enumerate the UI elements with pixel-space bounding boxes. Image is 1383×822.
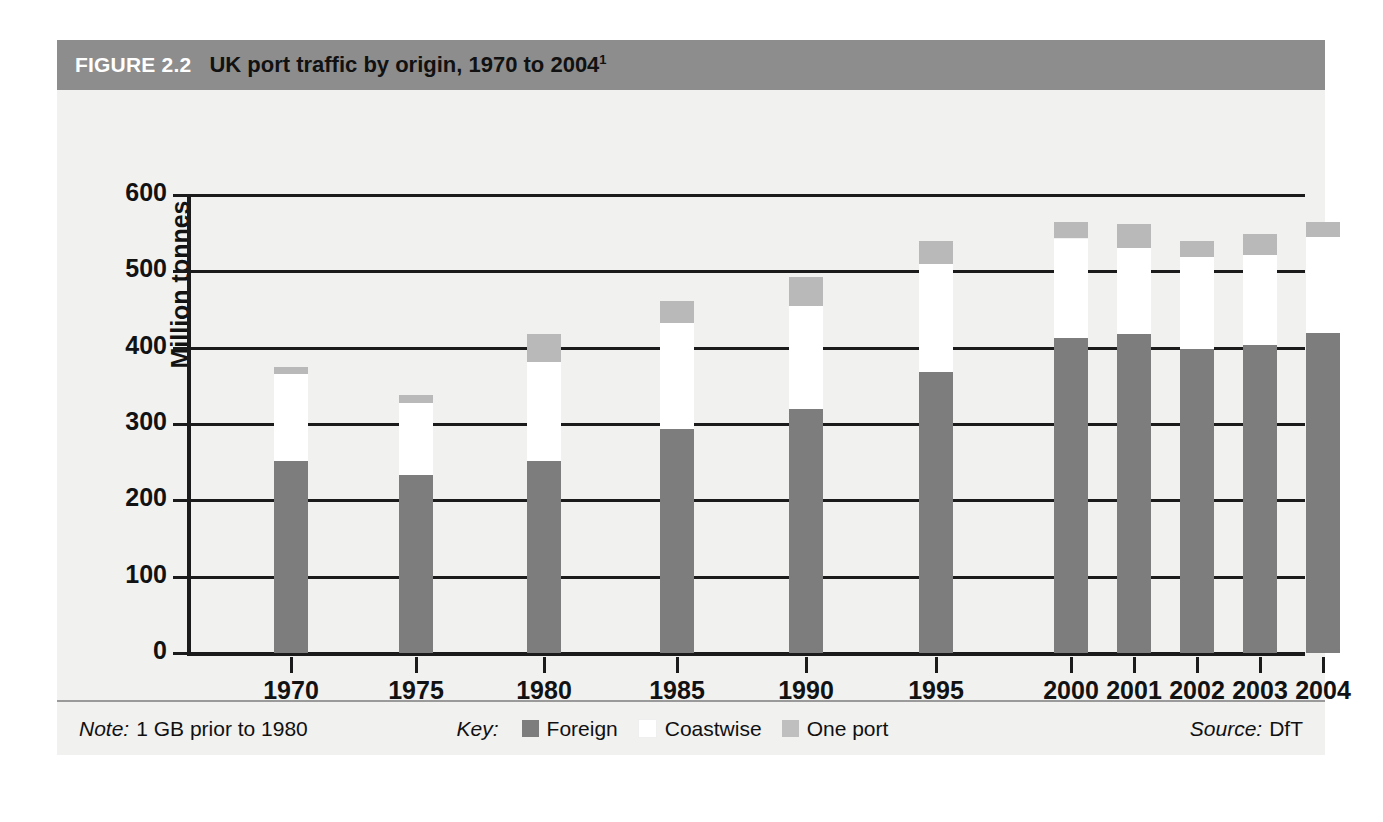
figure-title: UK port traffic by origin, 1970 to 20041	[209, 52, 606, 78]
bar-1985	[660, 90, 694, 700]
bar-1970	[274, 90, 308, 700]
legend-swatch-foreign-icon	[522, 720, 539, 737]
legend-item-coastwise: Coastwise	[665, 717, 762, 741]
bar-segment-one-port-2004	[1306, 222, 1340, 237]
bar-segment-one-port-1975	[399, 395, 433, 403]
source-block: Source: DfT	[1190, 717, 1303, 741]
figure-header: FIGURE 2.2 UK port traffic by origin, 19…	[57, 40, 1325, 90]
bar-segment-coastwise-1975	[399, 403, 433, 476]
bar-segment-foreign-2004	[1306, 333, 1340, 653]
x-tick-mark-2000	[1070, 657, 1073, 673]
figure-title-text: UK port traffic by origin, 1970 to 2004	[209, 52, 599, 77]
x-tick-mark-2001	[1133, 657, 1136, 673]
bar-segment-foreign-1985	[660, 429, 694, 653]
bar-segment-coastwise-2003	[1243, 255, 1277, 345]
bar-segment-foreign-1995	[919, 372, 953, 653]
x-tick-mark-1975	[415, 657, 418, 673]
bar-segment-coastwise-2000	[1054, 239, 1088, 338]
source-text: DfT	[1269, 717, 1303, 741]
bar-segment-one-port-2000	[1054, 222, 1088, 239]
x-tick-mark-1990	[805, 657, 808, 673]
bar-segment-foreign-1975	[399, 475, 433, 653]
note-block: Note: 1 GB prior to 1980	[79, 717, 308, 741]
note-label: Note:	[79, 717, 129, 741]
note-text: 1 GB prior to 1980	[136, 717, 308, 741]
bar-segment-one-port-2002	[1180, 241, 1214, 257]
bar-2004	[1306, 90, 1340, 700]
source-label: Source:	[1190, 717, 1262, 741]
x-tick-mark-2004	[1322, 657, 1325, 673]
bar-segment-foreign-2000	[1054, 338, 1088, 653]
bar-segment-coastwise-2004	[1306, 237, 1340, 333]
bar-segment-one-port-1990	[789, 277, 823, 306]
x-tick-mark-1995	[935, 657, 938, 673]
bar-segment-foreign-1980	[527, 461, 561, 653]
bar-segment-one-port-1980	[527, 334, 561, 362]
bar-segment-foreign-1970	[274, 461, 308, 653]
legend-item-one-port: One port	[807, 717, 889, 741]
figure-container: FIGURE 2.2 UK port traffic by origin, 19…	[57, 40, 1325, 755]
bar-1995	[919, 90, 953, 700]
figure-title-footnote-marker: 1	[599, 52, 606, 67]
bar-segment-foreign-2002	[1180, 349, 1214, 653]
bar-segment-one-port-2001	[1117, 224, 1151, 248]
bar-1980	[527, 90, 561, 700]
x-tick-mark-1985	[676, 657, 679, 673]
bar-2002	[1180, 90, 1214, 700]
bar-segment-one-port-2003	[1243, 234, 1277, 255]
x-tick-mark-2003	[1259, 657, 1262, 673]
bar-segment-foreign-2001	[1117, 334, 1151, 653]
bar-segment-coastwise-2001	[1117, 248, 1151, 333]
bar-segment-coastwise-1985	[660, 323, 694, 428]
bar-segment-coastwise-1970	[274, 374, 308, 460]
bar-segment-one-port-1995	[919, 241, 953, 264]
x-tick-mark-1980	[543, 657, 546, 673]
legend-swatch-coastwise-icon	[638, 719, 657, 738]
bar-2001	[1117, 90, 1151, 700]
legend-swatch-one-port-icon	[782, 720, 799, 737]
bar-1990	[789, 90, 823, 700]
bar-segment-foreign-2003	[1243, 345, 1277, 653]
x-tick-mark-1970	[290, 657, 293, 673]
figure-number: FIGURE 2.2	[75, 53, 191, 77]
bar-segment-coastwise-1990	[789, 306, 823, 408]
legend-item-foreign: Foreign	[547, 717, 618, 741]
x-tick-mark-2002	[1196, 657, 1199, 673]
legend: Key: Foreign Coastwise One port	[457, 717, 893, 741]
bars-layer: 1970197519801985199019952000200120022003…	[57, 90, 1325, 700]
bar-segment-coastwise-1995	[919, 264, 953, 372]
bar-2003	[1243, 90, 1277, 700]
bar-1975	[399, 90, 433, 700]
bar-segment-coastwise-2002	[1180, 257, 1214, 349]
bar-segment-one-port-1970	[274, 367, 308, 375]
bar-segment-one-port-1985	[660, 301, 694, 323]
bar-segment-coastwise-1980	[527, 362, 561, 460]
figure-footer: Note: 1 GB prior to 1980 Key: Foreign Co…	[57, 700, 1325, 755]
bar-2000	[1054, 90, 1088, 700]
bar-segment-foreign-1990	[789, 409, 823, 653]
chart-plot-area: Million tonnes 0100200300400500600 19701…	[57, 90, 1325, 700]
legend-label: Key:	[457, 717, 499, 741]
